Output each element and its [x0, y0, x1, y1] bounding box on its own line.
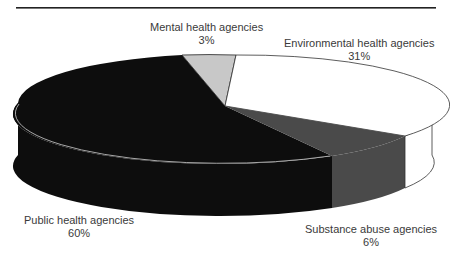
label-environmental-health-name: Environmental health agencies [284, 37, 434, 50]
label-mental-health: Mental health agencies 3% [150, 21, 263, 47]
label-substance-abuse-pct: 6% [305, 236, 437, 249]
label-public-health-pct: 60% [24, 227, 134, 240]
label-substance-abuse: Substance abuse agencies 6% [305, 223, 437, 249]
label-public-health-name: Public health agencies [24, 214, 134, 227]
label-mental-health-name: Mental health agencies [150, 21, 263, 34]
label-environmental-health: Environmental health agencies 31% [284, 37, 434, 63]
label-environmental-health-pct: 31% [284, 50, 434, 63]
label-mental-health-pct: 3% [150, 34, 263, 47]
label-public-health: Public health agencies 60% [24, 214, 134, 240]
label-substance-abuse-name: Substance abuse agencies [305, 223, 437, 236]
